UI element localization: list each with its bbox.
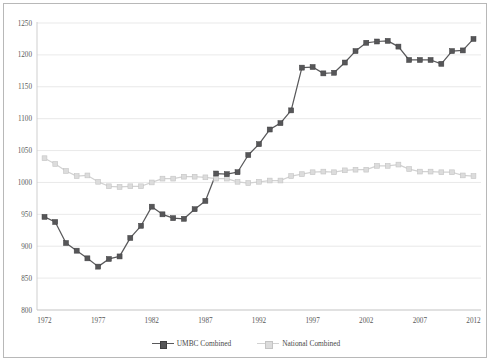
- x-tick-label: 1977: [91, 317, 106, 325]
- data-point-marker: [42, 214, 47, 219]
- data-point-marker: [417, 169, 422, 174]
- y-tick-label: 800: [21, 307, 32, 315]
- data-point-marker: [332, 70, 337, 75]
- data-point-marker: [267, 178, 272, 183]
- y-axis-tick-labels: 800850900950100010501100115012001250: [18, 20, 33, 315]
- y-tick-label: 950: [21, 211, 32, 219]
- data-point-marker: [471, 174, 476, 179]
- data-point-marker: [182, 174, 187, 179]
- data-point-marker: [224, 176, 229, 181]
- plot-area: 800850900950100010501100115012001250 197…: [4, 4, 488, 359]
- data-point-marker: [353, 49, 358, 54]
- y-tick-label: 1050: [18, 147, 33, 155]
- data-point-marker: [299, 65, 304, 70]
- data-point-marker: [289, 108, 294, 113]
- y-tick-label: 1150: [18, 83, 33, 91]
- data-point-marker: [353, 167, 358, 172]
- data-point-marker: [471, 36, 476, 41]
- data-point-marker: [460, 48, 465, 53]
- data-point-marker: [428, 169, 433, 174]
- data-point-marker: [407, 57, 412, 62]
- data-point-marker: [257, 179, 262, 184]
- data-point-marker: [396, 44, 401, 49]
- x-tick-label: 1982: [145, 317, 160, 325]
- chart-container: 800850900950100010501100115012001250 197…: [3, 3, 487, 358]
- data-point-marker: [374, 39, 379, 44]
- data-point-marker: [385, 38, 390, 43]
- data-point-marker: [117, 254, 122, 259]
- y-tick-label: 900: [21, 243, 32, 251]
- data-point-marker: [246, 181, 251, 186]
- x-tick-label: 2012: [466, 317, 481, 325]
- data-point-marker: [385, 163, 390, 168]
- legend-label-national: National Combined: [282, 339, 340, 348]
- data-point-marker: [203, 175, 208, 180]
- series-line-umbc: [45, 39, 474, 267]
- data-point-marker: [96, 179, 101, 184]
- data-point-marker: [450, 170, 455, 175]
- data-point-marker: [278, 178, 283, 183]
- data-point-marker: [342, 60, 347, 65]
- x-tick-label: 1992: [252, 317, 267, 325]
- data-point-marker: [181, 216, 186, 221]
- data-point-marker: [160, 176, 165, 181]
- data-point-marker: [439, 61, 444, 66]
- data-point-marker: [117, 185, 122, 190]
- data-point-marker: [42, 156, 47, 161]
- data-point-marker: [321, 169, 326, 174]
- legend-label-umbc: UMBC Combined: [177, 339, 231, 348]
- data-point-marker: [192, 207, 197, 212]
- data-point-marker: [53, 162, 58, 167]
- data-point-marker: [278, 121, 283, 126]
- data-point-marker: [396, 162, 401, 167]
- data-point-marker: [128, 235, 133, 240]
- data-point-marker: [149, 204, 154, 209]
- gridlines-group: [37, 22, 481, 310]
- data-point-marker: [106, 256, 111, 261]
- y-tick-label: 1000: [18, 179, 33, 187]
- y-tick-label: 1250: [18, 20, 33, 28]
- x-tick-label: 1997: [305, 317, 320, 325]
- x-tick-label: 2007: [413, 317, 428, 325]
- data-point-marker: [300, 172, 305, 177]
- data-point-marker: [267, 127, 272, 132]
- x-axis-tick-labels: 197219771982198719921997200220072012: [37, 317, 481, 325]
- data-point-marker: [321, 71, 326, 76]
- data-point-marker: [64, 169, 69, 174]
- data-point-marker: [342, 168, 347, 173]
- legend-item-national-combined: National Combined: [257, 339, 340, 348]
- data-point-marker: [257, 142, 262, 147]
- legend-swatch-icon-umbc: [152, 339, 174, 348]
- data-point-marker: [439, 170, 444, 175]
- y-tick-label: 1200: [18, 51, 33, 59]
- data-point-marker: [332, 170, 337, 175]
- series-markers-group: [42, 36, 476, 269]
- data-point-marker: [171, 176, 176, 181]
- data-point-marker: [85, 173, 90, 178]
- data-point-marker: [417, 57, 422, 62]
- chart-svg: 800850900950100010501100115012001250 197…: [4, 4, 488, 359]
- data-point-marker: [214, 176, 219, 181]
- data-point-marker: [214, 171, 219, 176]
- data-point-marker: [246, 153, 251, 158]
- legend-item-umbc-combined: UMBC Combined: [152, 339, 231, 348]
- data-point-marker: [407, 167, 412, 172]
- chart-legend: UMBC Combined National Combined: [4, 339, 488, 348]
- data-point-marker: [63, 241, 68, 246]
- data-point-marker: [310, 65, 315, 70]
- data-point-marker: [428, 57, 433, 62]
- data-point-marker: [149, 180, 154, 185]
- data-point-marker: [289, 174, 294, 179]
- data-point-marker: [235, 179, 240, 184]
- x-tick-label: 2002: [359, 317, 374, 325]
- x-tick-label: 1987: [198, 317, 213, 325]
- data-point-marker: [96, 264, 101, 269]
- y-tick-label: 1100: [18, 115, 33, 123]
- data-point-marker: [460, 173, 465, 178]
- data-point-marker: [85, 256, 90, 261]
- data-point-marker: [310, 170, 315, 175]
- data-point-marker: [139, 223, 144, 228]
- data-point-marker: [364, 167, 369, 172]
- data-point-marker: [53, 219, 58, 224]
- data-point-marker: [235, 170, 240, 175]
